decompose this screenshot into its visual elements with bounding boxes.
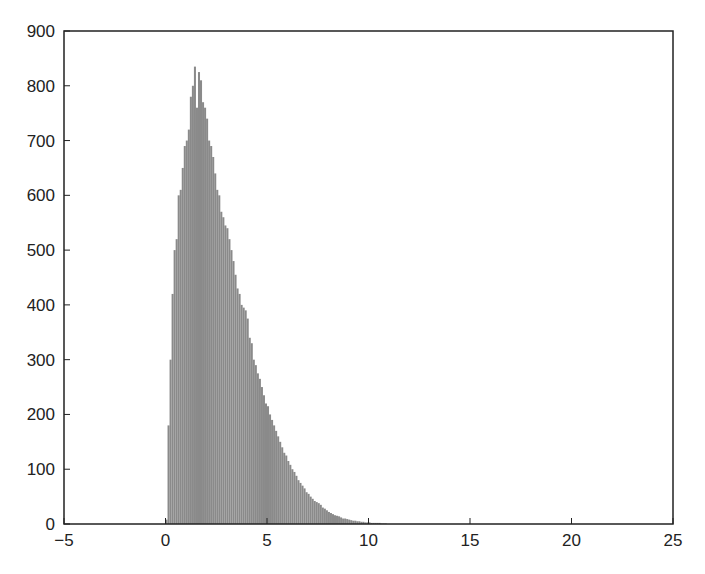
histogram-bar <box>216 190 218 524</box>
x-tick-label: −5 <box>54 531 73 550</box>
histogram-bar <box>324 509 326 524</box>
axes-frame <box>64 31 673 524</box>
histogram-bar <box>226 228 228 524</box>
histogram-bar <box>214 173 216 524</box>
histogram-bar <box>190 97 192 524</box>
histogram-bar <box>320 505 322 524</box>
histogram-bar <box>308 494 310 524</box>
histogram-bar <box>283 453 285 524</box>
histogram-bar <box>196 108 198 524</box>
histogram-bar <box>295 476 297 524</box>
histogram-bar <box>259 379 261 524</box>
histogram-bar <box>249 338 251 524</box>
histogram-bar <box>202 102 204 524</box>
x-tick-label: 25 <box>664 531 683 550</box>
histogram-bar <box>273 425 275 524</box>
histogram-bar <box>326 510 328 524</box>
histogram-bar <box>235 275 237 524</box>
histogram-bar <box>182 168 184 524</box>
histogram-bar <box>170 360 172 524</box>
y-tick-label: 200 <box>27 405 55 424</box>
x-tick-label: 20 <box>562 531 581 550</box>
histogram-bar <box>279 442 281 524</box>
histogram-bar <box>275 431 277 524</box>
histogram-bar <box>255 365 257 524</box>
histogram-bar <box>265 403 267 524</box>
histogram-bar <box>287 461 289 524</box>
histogram-bar <box>239 294 241 524</box>
x-tick-label: 10 <box>359 531 378 550</box>
histogram-bars <box>166 67 387 524</box>
histogram-bar <box>172 294 174 524</box>
histogram-bar <box>316 502 318 524</box>
histogram-bar <box>293 472 295 524</box>
histogram-bar <box>184 146 186 524</box>
histogram-bar <box>330 513 332 524</box>
histogram-bar <box>224 225 226 524</box>
y-tick-label: 400 <box>27 296 55 315</box>
histogram-bar <box>188 130 190 524</box>
histogram-bar <box>253 360 255 524</box>
histogram-bar <box>306 492 308 524</box>
histogram-bar <box>212 157 214 524</box>
histogram-bar <box>228 239 230 524</box>
histogram-bar <box>204 108 206 524</box>
histogram-bar <box>241 305 243 524</box>
x-tick-label: 5 <box>262 531 271 550</box>
histogram-bar <box>338 516 340 524</box>
histogram-bar <box>243 308 245 524</box>
histogram-bar <box>176 239 178 524</box>
histogram-bar <box>299 483 301 524</box>
histogram-bar <box>342 519 344 524</box>
histogram-bar <box>340 517 342 524</box>
histogram-bar <box>281 447 283 524</box>
histogram-bar <box>302 486 304 524</box>
x-tick-label: 0 <box>161 531 170 550</box>
histogram-bar <box>314 501 316 524</box>
histogram-bar <box>269 414 271 524</box>
histogram-bar <box>247 319 249 524</box>
x-tick-label: 15 <box>461 531 480 550</box>
histogram-bar <box>263 395 265 524</box>
histogram-bar <box>277 436 279 524</box>
histogram-bar <box>267 406 269 524</box>
histogram-bar <box>285 456 287 524</box>
histogram-bar <box>322 508 324 524</box>
histogram-bar <box>318 503 320 524</box>
x-axis: −50510152025 <box>54 518 682 550</box>
histogram-bar <box>168 425 170 524</box>
histogram-bar <box>198 72 200 524</box>
histogram-bar <box>328 512 330 524</box>
histogram-bar <box>310 497 312 524</box>
histogram-bar <box>194 67 196 524</box>
histogram-bar <box>245 310 247 524</box>
histogram-bar <box>220 212 222 524</box>
y-tick-label: 0 <box>46 515 55 534</box>
histogram-bar <box>237 288 239 524</box>
histogram-bar <box>218 195 220 524</box>
histogram-bar <box>332 514 334 524</box>
histogram-bar <box>344 519 346 524</box>
histogram-bar <box>261 387 263 524</box>
y-tick-label: 700 <box>27 132 55 151</box>
histogram-bar <box>297 480 299 524</box>
histogram-bar <box>174 250 176 524</box>
y-tick-label: 900 <box>27 22 55 41</box>
histogram-bar <box>222 217 224 524</box>
histogram-bar <box>291 469 293 524</box>
histogram-bar <box>289 465 291 524</box>
histogram-bar <box>336 516 338 524</box>
histogram-bar <box>208 141 210 524</box>
y-tick-label: 800 <box>27 77 55 96</box>
histogram-bar <box>210 146 212 524</box>
histogram-bar <box>257 373 259 524</box>
histogram-bar <box>304 488 306 524</box>
y-tick-label: 500 <box>27 241 55 260</box>
histogram-bar <box>312 499 314 524</box>
histogram-bar <box>271 420 273 524</box>
histogram-bar <box>180 190 182 524</box>
histogram-bar <box>334 515 336 524</box>
y-tick-label: 100 <box>27 460 55 479</box>
histogram-bar <box>251 343 253 524</box>
histogram-bar <box>186 141 188 524</box>
